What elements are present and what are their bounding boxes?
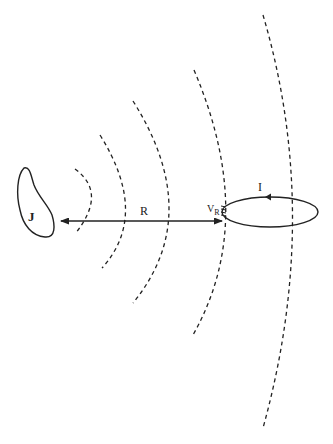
current-label: I: [258, 180, 262, 194]
voltage-label: VR: [207, 203, 220, 217]
distance-label: R: [140, 204, 148, 218]
source-blob: [18, 168, 54, 237]
wavefront-arc-1: [75, 169, 92, 234]
wavefront-arc-5: [263, 15, 293, 428]
current-direction-arrow: [265, 194, 271, 201]
receiving-loop: [222, 197, 318, 227]
wavefront-arc-3: [133, 101, 169, 303]
source-label: J: [28, 209, 35, 224]
wavefront-arc-2: [100, 135, 126, 268]
diagram-canvas: J R I VR: [0, 0, 333, 444]
